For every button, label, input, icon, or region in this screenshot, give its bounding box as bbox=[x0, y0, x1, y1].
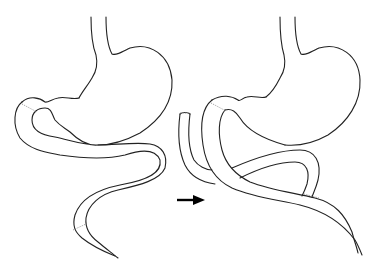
bp-limb bbox=[179, 114, 215, 184]
diagram-svg bbox=[0, 0, 375, 262]
esophagus-left bbox=[79, 17, 97, 98]
arrow-right-icon bbox=[177, 195, 205, 205]
small-bowel-outer bbox=[15, 102, 160, 256]
esophagus-right bbox=[98, 17, 172, 145]
panel-before bbox=[15, 17, 172, 258]
diagram-canvas: Roux-en-Y gastric anatomy: before and af… bbox=[0, 0, 375, 262]
small-bowel-inner bbox=[32, 108, 166, 258]
panel-after bbox=[179, 17, 362, 255]
